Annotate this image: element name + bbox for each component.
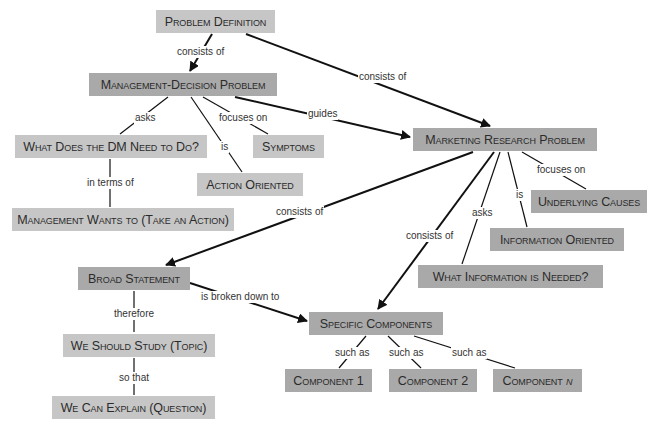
- link-label-mdp-guides: guides: [307, 108, 338, 120]
- node-we-should-study: We Should Study (Topic): [63, 334, 215, 357]
- node-information-oriented: Information Oriented: [490, 228, 624, 251]
- link-label-study-so-that: so that: [118, 372, 150, 384]
- node-symptoms: Symptoms: [253, 135, 324, 158]
- link-label-such-as-2: such as: [388, 347, 424, 359]
- node-label: Component 2: [398, 374, 468, 388]
- node-label: Symptoms: [262, 140, 315, 154]
- link-label-dm-in-terms: in terms of: [86, 177, 135, 189]
- node-label: We Can Explain (Question): [61, 401, 207, 415]
- link-label-such-as-n: such as: [451, 347, 487, 359]
- link-label-pd-mdp: consists of: [176, 46, 225, 58]
- node-label-variable: n: [566, 374, 572, 388]
- node-management-wants-to: Management Wants to (Take an Action): [12, 208, 234, 231]
- node-specific-components: Specific Components: [309, 312, 443, 335]
- node-label: What Information is Needed?: [433, 270, 589, 284]
- node-label: Management Wants to (Take an Action): [17, 213, 228, 227]
- node-component-2: Component 2: [389, 369, 477, 392]
- node-what-does-dm-need: What Does the DM Need to Do?: [15, 135, 207, 158]
- node-label: Specific Components: [320, 317, 432, 331]
- link-label-mrp-focuses: focuses on: [536, 164, 586, 176]
- link-label-mrp-is: is: [515, 189, 524, 201]
- node-label: Problem Definition: [165, 15, 267, 29]
- link-label-pd-mrp: consists of: [358, 71, 407, 83]
- node-what-information-needed: What Information is Needed?: [418, 265, 603, 288]
- node-underlying-causes: Underlying Causes: [531, 190, 647, 213]
- link-label-mdp-focuses: focuses on: [218, 112, 268, 124]
- node-broad-statement: Broad Statement: [78, 267, 190, 290]
- node-problem-definition: Problem Definition: [156, 10, 275, 33]
- node-label: Information Oriented: [500, 233, 614, 247]
- link-label-mdp-is: is: [220, 141, 229, 153]
- node-we-can-explain: We Can Explain (Question): [52, 396, 215, 419]
- node-label: Component: [503, 374, 567, 388]
- node-label: Marketing Research Problem: [425, 133, 585, 147]
- node-label: What Does the DM Need to Do?: [23, 140, 199, 154]
- node-label: Component 1: [293, 374, 363, 388]
- node-label: We Should Study (Topic): [71, 339, 208, 353]
- node-label: Management-Decision Problem: [101, 78, 266, 92]
- node-management-decision-problem: Management-Decision Problem: [89, 73, 277, 96]
- link-label-broad-therefore: therefore: [113, 308, 155, 320]
- link-label-broad-broken: is broken down to: [200, 291, 280, 303]
- link-label-mrp-consists-specific: consists of: [405, 230, 454, 242]
- node-label: Underlying Causes: [538, 195, 640, 209]
- link-label-mdp-asks: asks: [134, 112, 157, 124]
- link-label-mrp-asks: asks: [471, 207, 494, 219]
- node-component-1: Component 1: [285, 369, 372, 392]
- node-label: Action Oriented: [206, 178, 294, 192]
- node-marketing-research-problem: Marketing Research Problem: [413, 128, 597, 151]
- node-component-n: Component n: [493, 369, 582, 392]
- link-label-mrp-consists-broad: consists of: [275, 206, 324, 218]
- node-label: Broad Statement: [88, 272, 180, 286]
- node-action-oriented: Action Oriented: [197, 173, 303, 196]
- link-label-such-as-1: such as: [334, 347, 370, 359]
